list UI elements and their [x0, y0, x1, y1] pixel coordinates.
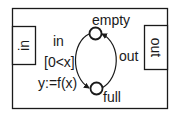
- input-port[interactable]: in: [13, 27, 36, 65]
- transition-trigger-out: out: [119, 48, 139, 64]
- state-empty[interactable]: [90, 28, 102, 40]
- state-full-label: full: [103, 89, 121, 105]
- state-machine-diagram: in out empty full in [0<x] y:=f(x) out: [0, 0, 175, 117]
- transition-guard: [0<x]: [44, 54, 75, 70]
- transition-action: y:=f(x): [38, 75, 77, 91]
- output-port[interactable]: out: [145, 26, 168, 70]
- output-port-label: out: [148, 38, 164, 58]
- state-empty-label: empty: [92, 12, 130, 28]
- transition-trigger-in: in: [53, 33, 64, 49]
- transition-empty-to-full[interactable]: [75, 34, 89, 88]
- transition-full-to-empty[interactable]: [102, 34, 116, 88]
- state-full[interactable]: [91, 83, 103, 95]
- input-port-label: in: [16, 40, 32, 51]
